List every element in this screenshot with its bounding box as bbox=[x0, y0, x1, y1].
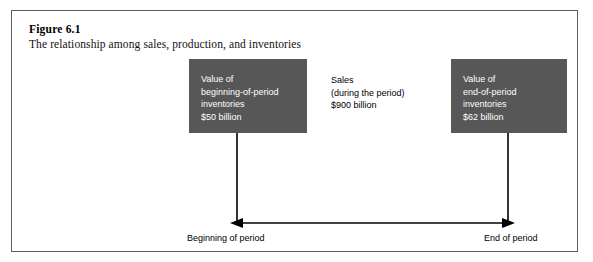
timeline-connectors bbox=[12, 11, 577, 251]
timeline-end-label: End of period bbox=[484, 232, 538, 244]
timeline-start-label: Beginning of period bbox=[187, 232, 265, 244]
figure-frame: Figure 6.1 The relationship among sales,… bbox=[11, 10, 578, 252]
